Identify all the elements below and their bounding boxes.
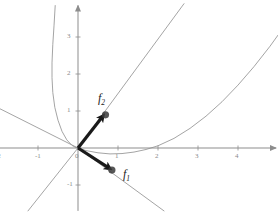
x-tick-label-4: 4: [235, 153, 239, 160]
vector-label-f2: f2: [98, 92, 105, 107]
vector-f1: [78, 148, 108, 168]
y-tick-label-2: 2: [67, 70, 71, 77]
y-tick-label-3: 3: [67, 33, 71, 40]
y-tick-label--1: -1: [67, 181, 73, 188]
x-tick-label-1: 1: [115, 153, 119, 160]
vector-group: [78, 111, 116, 174]
vector-tip-dot-f2: [102, 111, 109, 118]
x-tick-label-3: 3: [195, 153, 199, 160]
x-tick-label-2: 2: [155, 153, 159, 160]
curve-narrow-upward-parabola: [52, 6, 78, 148]
x-tick-label-0: 0: [75, 153, 79, 160]
vector-label-f2-sub: 2: [101, 98, 105, 107]
vector-f2: [78, 117, 102, 148]
y-tick-label-1: 1: [67, 107, 71, 114]
axes-group: [0, 6, 276, 211]
math-plot-figure: -2-101234-1123 f2 f1: [0, 0, 278, 216]
curve-wide-upward-parabola: [76, 35, 278, 154]
x-tick-label--1: -1: [35, 153, 41, 160]
x-tick-label--2: -2: [0, 153, 1, 160]
curve-group: [0, 4, 278, 211]
axis-ticks: [0, 37, 238, 185]
plot-canvas: [0, 0, 278, 216]
vector-tip-dot-f1: [108, 167, 115, 174]
vector-label-f1-sub: 1: [126, 174, 130, 183]
vector-label-f1: f1: [123, 168, 130, 183]
